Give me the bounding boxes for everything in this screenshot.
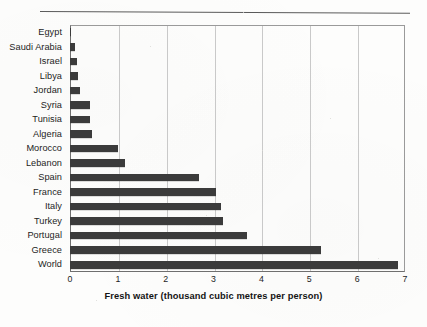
bar-row <box>70 156 405 171</box>
bar-saudi-arabia <box>70 43 75 51</box>
bar-row <box>70 69 405 84</box>
category-label-greece: Greece <box>32 243 62 258</box>
bar-algeria <box>70 130 92 138</box>
bar-chart: EgyptSaudi ArabiaIsraelLibyaJordanSyriaT… <box>0 0 427 327</box>
bar-row <box>70 25 405 40</box>
category-label-libya: Libya <box>40 69 62 84</box>
x-tick-1: 1 <box>115 274 120 284</box>
category-label-jordan: Jordan <box>34 83 62 98</box>
category-label-israel: Israel <box>39 54 62 69</box>
bar-row <box>70 141 405 156</box>
category-label-tunisia: Tunisia <box>32 112 62 127</box>
bar-row <box>70 170 405 185</box>
bar-row <box>70 40 405 55</box>
bar-egypt <box>70 28 71 36</box>
x-tick-7: 7 <box>403 274 408 284</box>
bar-morocco <box>70 145 118 153</box>
bar-row <box>70 54 405 69</box>
value-axis-ticks: 01234567 <box>70 274 405 288</box>
bar-row <box>70 185 405 200</box>
x-tick-2: 2 <box>163 274 168 284</box>
bar-world <box>70 261 398 269</box>
category-label-spain: Spain <box>38 170 62 185</box>
bar-israel <box>70 58 77 66</box>
bar-row <box>70 127 405 142</box>
bar-row <box>70 214 405 229</box>
category-label-egypt: Egypt <box>38 25 62 40</box>
bar-portugal <box>70 232 247 240</box>
category-axis-labels: EgyptSaudi ArabiaIsraelLibyaJordanSyriaT… <box>0 25 66 272</box>
category-label-italy: Italy <box>45 199 62 214</box>
scan-speck <box>378 258 379 259</box>
bar-row <box>70 228 405 243</box>
category-label-lebanon: Lebanon <box>26 156 62 171</box>
bar-lebanon <box>70 159 125 167</box>
category-label-france: France <box>33 185 62 200</box>
bar-tunisia <box>70 116 90 124</box>
axis-title: Fresh water (thousand cubic metres per p… <box>0 291 427 301</box>
category-label-algeria: Algeria <box>33 127 62 142</box>
category-label-morocco: Morocco <box>26 141 62 156</box>
bar-france <box>70 188 216 196</box>
bar-spain <box>70 174 199 182</box>
bar-series <box>70 25 405 272</box>
category-label-portugal: Portugal <box>27 228 62 243</box>
bar-row <box>70 112 405 127</box>
bar-jordan <box>70 87 80 95</box>
bar-row <box>70 243 405 258</box>
x-tick-5: 5 <box>307 274 312 284</box>
bar-italy <box>70 203 221 211</box>
category-label-world: World <box>38 257 62 272</box>
bar-turkey <box>70 217 223 225</box>
bar-row <box>70 98 405 113</box>
bar-row <box>70 83 405 98</box>
category-label-syria: Syria <box>41 98 62 113</box>
x-tick-0: 0 <box>68 274 73 284</box>
bar-syria <box>70 101 90 109</box>
bar-libya <box>70 72 78 80</box>
category-label-saudi-arabia: Saudi Arabia <box>9 40 62 55</box>
bar-greece <box>70 246 321 254</box>
x-tick-6: 6 <box>355 274 360 284</box>
x-tick-4: 4 <box>259 274 264 284</box>
bar-row <box>70 199 405 214</box>
x-tick-3: 3 <box>211 274 216 284</box>
category-label-turkey: Turkey <box>34 214 62 229</box>
bar-row <box>70 257 405 272</box>
